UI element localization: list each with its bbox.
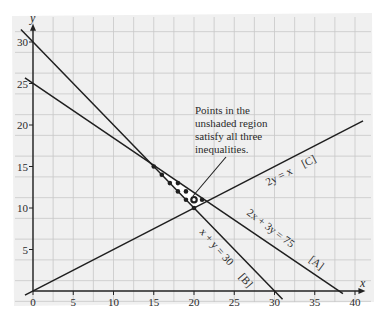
- linear-programming-chart: 051015202530354051015202530 Points in th…: [0, 0, 385, 320]
- point: [176, 181, 181, 186]
- annotation-line-2: unshaded region: [195, 117, 268, 129]
- x-tick-label: 5: [71, 296, 77, 308]
- annotation-line-3: satisfy all three: [195, 130, 262, 142]
- x-tick-label: 15: [148, 296, 160, 308]
- point-open: [192, 198, 195, 201]
- point: [151, 164, 156, 169]
- x-tick-label: 30: [269, 296, 281, 308]
- x-axis-label: x: [359, 276, 366, 290]
- point: [192, 206, 197, 211]
- y-axis-label: y: [29, 11, 36, 25]
- point: [200, 197, 205, 202]
- x-tick-label: 20: [189, 296, 201, 308]
- point: [184, 189, 189, 194]
- y-tick-label: 15: [17, 161, 29, 173]
- y-tick-label: 30: [17, 36, 29, 48]
- x-tick-label: 10: [108, 296, 120, 308]
- y-tick-label: 5: [23, 244, 29, 256]
- point: [160, 173, 165, 178]
- point: [168, 181, 173, 186]
- annotation-line-1: Points in the: [195, 104, 250, 116]
- annotation-line-4: inequalities.: [195, 143, 249, 155]
- x-tick-label: 25: [229, 296, 241, 308]
- y-tick-label: 10: [17, 202, 29, 214]
- x-tick-label: 35: [309, 296, 321, 308]
- graph-paper: 051015202530354051015202530 Points in th…: [0, 0, 385, 320]
- point: [184, 197, 189, 202]
- x-tick-label: 40: [350, 296, 362, 308]
- x-tick-label: 0: [30, 296, 36, 308]
- point: [176, 189, 181, 194]
- y-tick-label: 20: [17, 119, 29, 131]
